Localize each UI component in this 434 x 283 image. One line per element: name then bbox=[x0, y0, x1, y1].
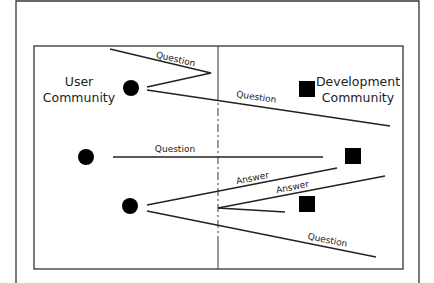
user-community-line1: User bbox=[65, 74, 94, 89]
dev-node-2 bbox=[345, 148, 361, 164]
flow-question-bottom bbox=[147, 211, 376, 257]
dev-node-3 bbox=[299, 196, 315, 212]
dev-node-1 bbox=[299, 81, 315, 97]
development-community-label: Development Community bbox=[316, 74, 400, 105]
label-question-2: Question bbox=[236, 89, 277, 105]
user-node-3 bbox=[122, 198, 138, 214]
flow-answer-2-tail bbox=[218, 208, 285, 212]
user-community-label: User Community bbox=[43, 74, 116, 105]
label-question-4: Question bbox=[307, 231, 348, 249]
label-question-3: Question bbox=[155, 144, 195, 154]
label-answer-1: Answer bbox=[235, 170, 270, 186]
development-community-line2: Community bbox=[322, 90, 395, 105]
user-community-line2: Community bbox=[43, 90, 116, 105]
label-question-1: Question bbox=[155, 50, 196, 69]
label-answer-2: Answer bbox=[275, 179, 310, 195]
development-community-line1: Development bbox=[316, 74, 400, 89]
communication-diagram: User Community Development Community Que… bbox=[0, 0, 434, 283]
user-node-2 bbox=[78, 149, 94, 165]
user-node-1 bbox=[123, 80, 139, 96]
